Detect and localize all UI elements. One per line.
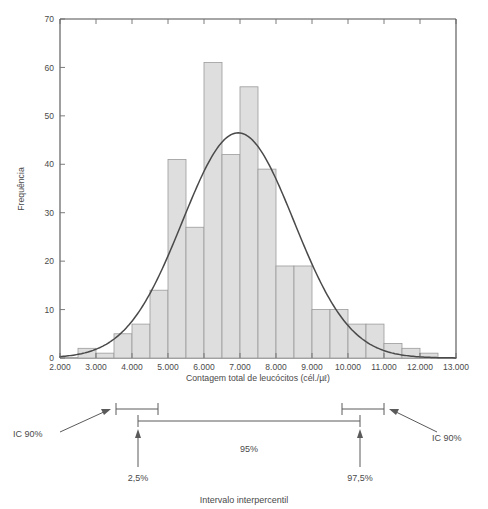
x-tick-label: 5.000 xyxy=(157,362,179,372)
x-tick-label: 13.000 xyxy=(443,362,469,372)
histogram-bar xyxy=(240,87,258,358)
histogram-bar xyxy=(168,159,186,358)
x-tick-label: 6.000 xyxy=(193,362,215,372)
x-tick-label: 7.000 xyxy=(229,362,251,372)
y-tick-label: 30 xyxy=(45,208,55,218)
histogram-bar xyxy=(330,310,348,358)
histogram-bar xyxy=(258,169,276,358)
x-tick-label: 2.000 xyxy=(49,362,71,372)
y-tick-label: 40 xyxy=(45,159,55,169)
central-95-span xyxy=(138,415,360,427)
histogram-bar xyxy=(294,266,312,358)
histogram-bar xyxy=(150,290,168,358)
x-axis-title: Contagem total de leucócitos (cél./µℓ) xyxy=(186,373,330,383)
histogram-bar xyxy=(276,266,294,358)
x-tick-label: 4.000 xyxy=(121,362,143,372)
x-tick-label: 8.000 xyxy=(265,362,287,372)
x-tick-label: 3.000 xyxy=(85,362,107,372)
y-tick-label: 50 xyxy=(45,111,55,121)
y-axis-title: Frequência xyxy=(16,167,26,211)
ci-right-label: IC 90% xyxy=(432,433,462,443)
y-axis-ticks: 010203040506070 xyxy=(45,14,65,363)
y-tick-label: 20 xyxy=(45,256,55,266)
histogram-bar xyxy=(132,324,150,358)
histogram-bar xyxy=(312,310,330,358)
x-tick-label: 10.000 xyxy=(335,362,361,372)
ci-left-label: IC 90% xyxy=(13,429,43,439)
diagram-caption: Intervalo interpercentil xyxy=(200,495,289,505)
histogram-chart: 010203040506070 2.0003.0004.0005.0006.00… xyxy=(0,0,488,509)
ci-right-bracket xyxy=(342,403,384,415)
ci-right-leader-arrow xyxy=(389,409,437,432)
x-tick-label: 12.000 xyxy=(407,362,433,372)
histogram-bar xyxy=(204,63,222,358)
lower-percentile-label: 2,5% xyxy=(128,473,149,483)
x-tick-label: 11.000 xyxy=(371,362,397,372)
y-tick-label: 10 xyxy=(45,305,55,315)
histogram-bar xyxy=(222,155,240,358)
y-tick-label: 60 xyxy=(45,63,55,73)
y-tick-label: 70 xyxy=(45,14,55,24)
interpercentile-diagram: IC 90% IC 90% 95% 2,5% 97,5% Intervalo i… xyxy=(13,403,462,505)
histogram-bar xyxy=(186,227,204,358)
lower-percentile-arrow xyxy=(135,429,141,467)
x-tick-label: 9.000 xyxy=(301,362,323,372)
ci-left-bracket xyxy=(116,403,158,415)
center-95-label: 95% xyxy=(240,444,258,454)
ci-left-leader-arrow xyxy=(60,409,111,432)
upper-percentile-arrow xyxy=(357,429,363,467)
histogram-bars xyxy=(78,63,438,358)
upper-percentile-label: 97,5% xyxy=(347,473,373,483)
histogram-bar xyxy=(366,324,384,358)
figure-container: 010203040506070 2.0003.0004.0005.0006.00… xyxy=(0,0,488,509)
histogram-bar xyxy=(96,353,114,358)
